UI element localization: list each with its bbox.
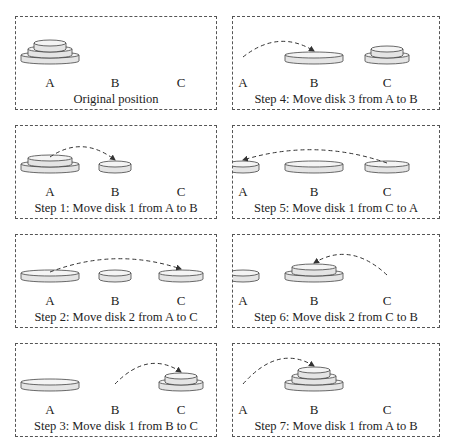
peg-label-a: A bbox=[233, 402, 253, 418]
disk-1-icon bbox=[298, 367, 330, 379]
panel-step-2: A B C Step 2: Move disk 2 from A to C bbox=[15, 234, 217, 328]
peg-label-a: A bbox=[233, 75, 253, 91]
peg-label-b: B bbox=[105, 293, 125, 309]
panel-caption: Step 3: Move disk 1 from B to C bbox=[16, 419, 216, 434]
panel-caption: Step 4: Move disk 3 from A to B bbox=[233, 92, 439, 107]
panel-step-4: A B C Step 4: Move disk 3 from A to B bbox=[232, 16, 440, 110]
disk-1-icon bbox=[371, 46, 403, 58]
disk-1-icon bbox=[233, 270, 259, 282]
panel-caption: Step 5: Move disk 1 from C to A bbox=[233, 201, 439, 216]
disk-2-icon bbox=[159, 270, 203, 282]
peg-label-a: A bbox=[233, 184, 253, 200]
disk-3-icon bbox=[285, 161, 343, 173]
panel-step-7: A B C Step 7: Move disk 1 from A to B bbox=[232, 343, 440, 437]
panel-caption: Step 6: Move disk 2 from C to B bbox=[233, 310, 439, 325]
peg-label-b: B bbox=[105, 402, 125, 418]
peg-label-a: A bbox=[40, 402, 60, 418]
panel-original: A B C Original position bbox=[15, 16, 217, 110]
peg-label-c: C bbox=[377, 293, 397, 309]
peg-label-a: A bbox=[40, 184, 60, 200]
peg-label-b: B bbox=[105, 184, 125, 200]
peg-label-b: B bbox=[304, 293, 324, 309]
peg-label-c: C bbox=[377, 184, 397, 200]
peg-label-c: C bbox=[171, 293, 191, 309]
panel-step-1: A B C Step 1: Move disk 1 from A to B bbox=[15, 125, 217, 219]
peg-label-c: C bbox=[377, 75, 397, 91]
panel-caption: Step 1: Move disk 1 from A to B bbox=[16, 201, 216, 216]
panel-step-3: A B C Step 3: Move disk 1 from B to C bbox=[15, 343, 217, 437]
disk-1-icon bbox=[34, 40, 66, 52]
peg-label-b: B bbox=[105, 75, 125, 91]
disk-1-icon bbox=[165, 373, 197, 385]
peg-label-c: C bbox=[171, 184, 191, 200]
panel-caption: Step 7: Move disk 1 from A to B bbox=[233, 419, 439, 434]
disk-1-icon bbox=[99, 270, 131, 282]
disk-2-icon bbox=[292, 264, 336, 276]
disk-3-icon bbox=[21, 379, 79, 391]
peg-label-c: C bbox=[171, 75, 191, 91]
disk-3-icon bbox=[285, 52, 343, 64]
peg-label-c: C bbox=[377, 402, 397, 418]
disk-1-icon bbox=[99, 161, 131, 173]
disk-1-icon bbox=[233, 161, 259, 173]
peg-label-b: B bbox=[304, 75, 324, 91]
panel-step-5: A B C Step 5: Move disk 1 from C to A bbox=[232, 125, 440, 219]
panel-caption: Step 2: Move disk 2 from A to C bbox=[16, 310, 216, 325]
peg-label-c: C bbox=[171, 402, 191, 418]
peg-label-a: A bbox=[233, 293, 253, 309]
panel-caption: Original position bbox=[16, 92, 216, 107]
panel-step-6: A B C Step 6: Move disk 2 from C to B bbox=[232, 234, 440, 328]
peg-label-b: B bbox=[304, 184, 324, 200]
peg-label-b: B bbox=[304, 402, 324, 418]
peg-label-a: A bbox=[40, 75, 60, 91]
peg-label-a: A bbox=[40, 293, 60, 309]
